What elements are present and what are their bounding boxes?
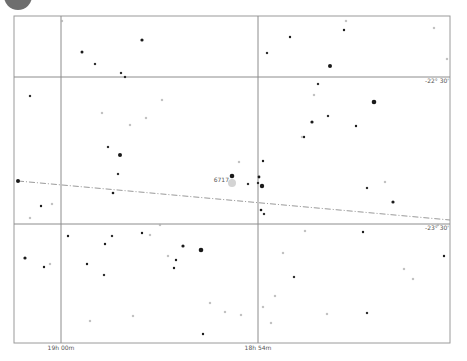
star bbox=[117, 173, 119, 175]
star bbox=[366, 312, 368, 314]
star bbox=[355, 125, 357, 127]
ecliptic-line bbox=[18, 181, 450, 220]
star bbox=[313, 94, 315, 96]
star bbox=[159, 224, 161, 226]
star-chart: 6717 19h 00m18h 54m-22° 30'-23° 30' bbox=[0, 0, 467, 361]
star bbox=[181, 244, 184, 247]
star bbox=[89, 320, 91, 322]
star bbox=[104, 243, 106, 245]
star-field bbox=[16, 20, 448, 335]
target-label: 6717 bbox=[214, 176, 229, 183]
star bbox=[443, 255, 445, 257]
dec-label: -22° 30' bbox=[425, 77, 449, 84]
star bbox=[94, 63, 96, 65]
star bbox=[262, 160, 264, 162]
star bbox=[40, 205, 42, 207]
star bbox=[328, 64, 332, 68]
star bbox=[81, 51, 84, 54]
star bbox=[209, 302, 211, 304]
star bbox=[274, 295, 276, 297]
star bbox=[262, 306, 264, 308]
star bbox=[29, 217, 31, 219]
star bbox=[86, 263, 88, 265]
star bbox=[366, 187, 368, 189]
star bbox=[343, 29, 345, 31]
star bbox=[446, 58, 448, 60]
star bbox=[317, 83, 319, 85]
star bbox=[301, 136, 303, 138]
star bbox=[49, 263, 51, 265]
star bbox=[167, 255, 169, 257]
star bbox=[327, 115, 329, 117]
star bbox=[107, 146, 109, 148]
star bbox=[433, 27, 435, 29]
star bbox=[391, 200, 394, 203]
star bbox=[111, 235, 113, 237]
star bbox=[61, 20, 63, 22]
star bbox=[140, 38, 143, 41]
star bbox=[289, 36, 291, 38]
star bbox=[173, 267, 175, 269]
star bbox=[238, 161, 240, 163]
star bbox=[132, 315, 134, 317]
corner-badge-icon bbox=[4, 0, 32, 10]
star bbox=[16, 179, 20, 183]
star bbox=[103, 274, 105, 276]
star bbox=[29, 95, 31, 97]
star bbox=[266, 52, 268, 54]
star bbox=[345, 20, 347, 22]
star bbox=[240, 314, 242, 316]
star bbox=[145, 117, 147, 119]
axis-labels: 19h 00m18h 54m-22° 30'-23° 30' bbox=[48, 77, 450, 351]
star bbox=[230, 174, 235, 179]
star bbox=[403, 268, 405, 270]
star bbox=[67, 235, 69, 237]
star bbox=[120, 72, 122, 74]
star bbox=[175, 259, 177, 261]
star bbox=[372, 100, 377, 105]
dec-label: -23° 30' bbox=[425, 224, 449, 231]
ra-label: 19h 00m bbox=[48, 344, 75, 351]
star bbox=[282, 252, 284, 254]
star bbox=[270, 322, 272, 324]
star bbox=[362, 231, 364, 233]
star bbox=[257, 182, 259, 184]
star bbox=[384, 181, 386, 183]
star bbox=[202, 333, 204, 335]
star bbox=[260, 184, 264, 188]
star bbox=[129, 124, 131, 126]
star bbox=[260, 209, 263, 212]
star bbox=[412, 278, 414, 280]
star bbox=[161, 99, 163, 101]
star bbox=[304, 230, 306, 232]
star bbox=[124, 76, 126, 78]
star bbox=[326, 313, 328, 315]
star bbox=[43, 266, 45, 268]
star bbox=[224, 311, 226, 313]
star bbox=[199, 248, 204, 253]
star bbox=[51, 203, 53, 205]
star bbox=[247, 183, 249, 185]
star bbox=[23, 256, 26, 259]
star bbox=[258, 176, 261, 179]
star bbox=[112, 192, 115, 195]
star bbox=[310, 120, 313, 123]
target-highlight-ring bbox=[228, 179, 236, 187]
star bbox=[141, 232, 143, 234]
star bbox=[101, 112, 103, 114]
star bbox=[118, 153, 122, 157]
star bbox=[149, 234, 151, 236]
ra-label: 18h 54m bbox=[245, 344, 272, 351]
star bbox=[263, 213, 265, 215]
star bbox=[293, 276, 295, 278]
